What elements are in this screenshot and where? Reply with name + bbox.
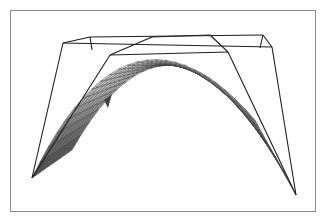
box-edge: [260, 35, 263, 48]
box-edge: [263, 35, 272, 47]
box-edge: [110, 52, 228, 55]
surface-mesh: [32, 60, 296, 195]
box-edge: [110, 37, 152, 55]
box-edge: [32, 55, 110, 178]
bounding-box-wireframe: [32, 35, 296, 195]
box-edge: [210, 35, 228, 52]
box-edge: [63, 37, 90, 43]
surface-plot: [0, 0, 324, 224]
box-edge: [63, 43, 272, 47]
box-edge: [228, 52, 296, 195]
